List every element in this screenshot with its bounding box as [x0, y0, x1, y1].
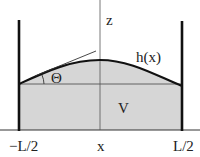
volume-label: V: [118, 100, 129, 116]
liquid-volume-region: [19, 60, 182, 130]
right-bound-label: L/2: [173, 138, 194, 154]
left-bound-label: −L/2: [9, 138, 38, 154]
z-axis-label: z: [106, 12, 113, 28]
meniscus-diagram: z h(x) Θ V x −L/2 L/2: [0, 0, 200, 157]
x-axis-label: x: [97, 138, 105, 154]
contact-angle-label: Θ: [51, 70, 62, 86]
height-function-label: h(x): [136, 49, 161, 66]
